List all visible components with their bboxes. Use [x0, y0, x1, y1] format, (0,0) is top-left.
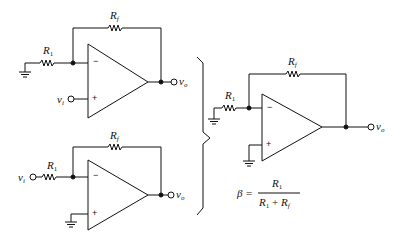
- brace: [197, 57, 210, 215]
- formula-denominator: R1 + Rf: [259, 196, 290, 210]
- diagram-canvas: Rf R1 vi vo − + Rf R1 vi vo − + Rf R1 vo…: [0, 0, 401, 244]
- label-vo: vo: [179, 76, 187, 89]
- formula-numerator: R1: [272, 177, 282, 191]
- label-r1: R1: [47, 160, 57, 173]
- label-vo: vo: [176, 189, 184, 202]
- label-vo: vo: [376, 121, 384, 134]
- label-rf: Rf: [110, 10, 119, 23]
- plus-terminal: +: [92, 94, 97, 103]
- plus-terminal: +: [92, 209, 97, 218]
- label-r1: R1: [225, 90, 235, 103]
- label-rf: Rf: [110, 130, 119, 143]
- label-rf: Rf: [288, 56, 297, 69]
- circuit-feedback-equivalent: [208, 71, 374, 166]
- circuit-inverting: [30, 144, 174, 230]
- plus-terminal: +: [266, 140, 271, 149]
- minus-terminal: −: [93, 57, 98, 66]
- circuit-noninverting: [19, 25, 177, 118]
- minus-terminal: −: [93, 171, 98, 180]
- circuit-wires: [0, 0, 401, 244]
- beta-lhs: β =: [237, 187, 253, 199]
- label-r1: R1: [43, 45, 53, 58]
- label-vi: vi: [18, 172, 25, 185]
- minus-terminal: −: [267, 103, 272, 112]
- label-vi: vi: [57, 94, 64, 107]
